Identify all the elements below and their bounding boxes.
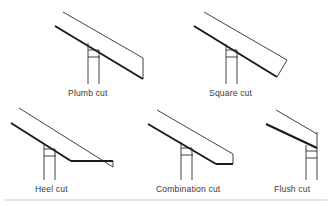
combination-rafter-bottom-line <box>148 124 216 164</box>
flush-rafter-bottom-line <box>266 124 317 148</box>
square-rafter-bottom-line <box>194 26 277 77</box>
flush-rafter-top-line <box>276 110 317 134</box>
heel-rafter-bottom-line <box>11 123 71 161</box>
flush-cut-label: Flush cut <box>274 184 311 194</box>
diagram-square-cut: Square cut <box>194 12 287 98</box>
diagram-plumb-cut: Plumb cut <box>55 12 143 98</box>
square-cut-label: Square cut <box>209 88 253 98</box>
square-cut-end-line <box>277 60 287 77</box>
flush-wall-post <box>306 145 317 180</box>
combination-rafter-top-line <box>157 110 233 154</box>
diagram-combination-cut: Combination cut <box>148 110 233 194</box>
diagram-flush-cut: Flush cut <box>266 110 317 194</box>
combination-wall-post <box>181 142 193 180</box>
rafter-cuts-figure: Plumb cut Square cut <box>0 0 331 206</box>
plumb-rafter-top-line <box>63 12 143 58</box>
combination-cut-label: Combination cut <box>156 184 221 194</box>
square-rafter-top-line <box>204 12 287 60</box>
plumb-cut-label: Plumb cut <box>68 88 108 98</box>
heel-cut-label: Heel cut <box>35 184 68 194</box>
heel-wall-post <box>44 143 56 180</box>
diagram-heel-cut: Heel cut <box>11 108 113 194</box>
square-wall-post <box>226 44 238 84</box>
